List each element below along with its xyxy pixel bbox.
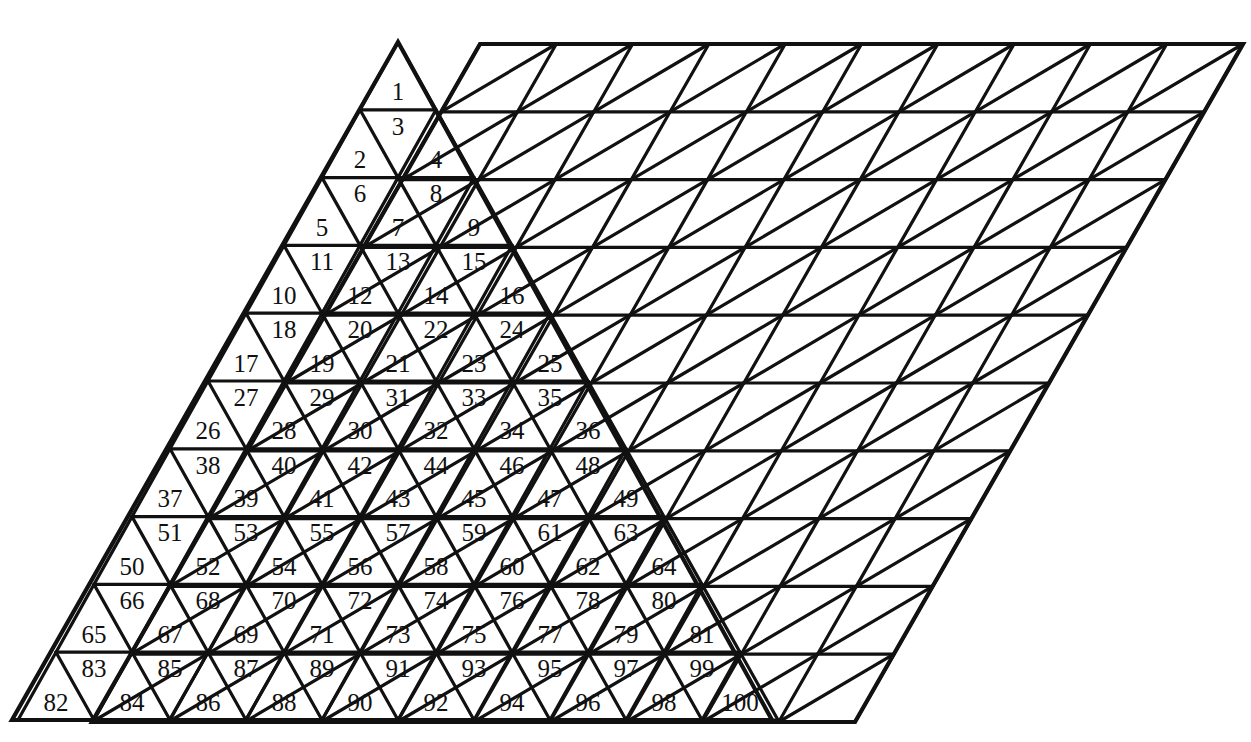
- rhombus-grid-group: [92, 44, 1243, 722]
- triangle-cell-number: 37: [158, 485, 183, 512]
- triangle-cell-number: 10: [272, 282, 297, 309]
- triangle-cell-number: 26: [196, 417, 221, 444]
- triangle-cell-number: 43: [386, 485, 411, 512]
- triangle-cell-number: 3: [392, 113, 405, 140]
- numbered-triangle-group: [12, 42, 778, 720]
- triangle-cell-number: 83: [82, 655, 107, 682]
- triangle-cell-number: 6: [354, 180, 367, 207]
- triangle-cell-number: 38: [196, 452, 221, 479]
- triangle-cell-number: 5: [316, 214, 329, 241]
- triangle-cell-number: 41: [310, 485, 335, 512]
- triangle-cell-number: 60: [500, 553, 525, 580]
- triangle-cell-number: 79: [614, 621, 639, 648]
- triangle-cell-number: 2: [354, 146, 367, 173]
- figure-canvas: 1234567891011121314151617181920212223242…: [0, 0, 1251, 742]
- triangle-cell-number: 1: [392, 78, 405, 105]
- triangle-cell-number: 50: [120, 553, 145, 580]
- triangle-cell-number: 18: [272, 316, 297, 343]
- triangle-cell-number: 11: [310, 248, 334, 275]
- triangle-cell-number: 58: [424, 553, 449, 580]
- triangle-cell-number: 62: [576, 553, 601, 580]
- triangle-cell-number: 82: [44, 689, 69, 716]
- triangle-cell-number: 77: [538, 621, 563, 648]
- triangle-rhombus-figure: 1234567891011121314151617181920212223242…: [0, 0, 1251, 742]
- triangle-cell-number: 17: [234, 350, 259, 377]
- triangle-cell-number: 66: [120, 587, 145, 614]
- triangle-cell-number: 56: [348, 553, 373, 580]
- triangle-cell-number: 27: [234, 384, 259, 411]
- triangle-cell-number: 81: [690, 621, 715, 648]
- triangle-cell-number: 39: [234, 485, 259, 512]
- triangle-cell-number: 51: [158, 519, 183, 546]
- triangle-cell-number: 65: [82, 621, 107, 648]
- triangle-cell-number: 85: [158, 655, 183, 682]
